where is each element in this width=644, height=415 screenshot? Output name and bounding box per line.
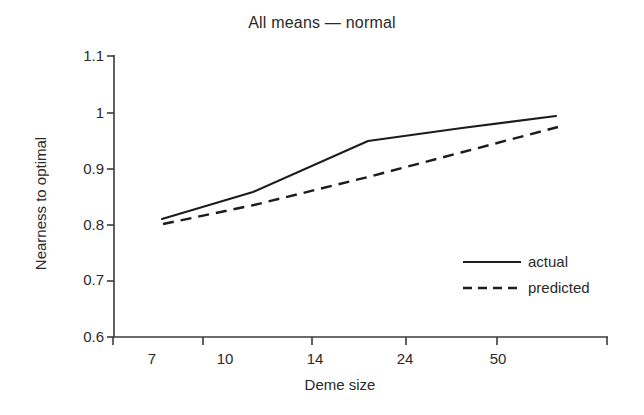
x-tick-marks [113, 337, 607, 345]
series-line-actual [162, 116, 556, 219]
plot-area [0, 0, 644, 415]
series-line-predicted [163, 127, 558, 224]
y-tick-marks [107, 56, 114, 337]
chart-figure: All means — normal Nearness to optimal D… [0, 0, 644, 415]
